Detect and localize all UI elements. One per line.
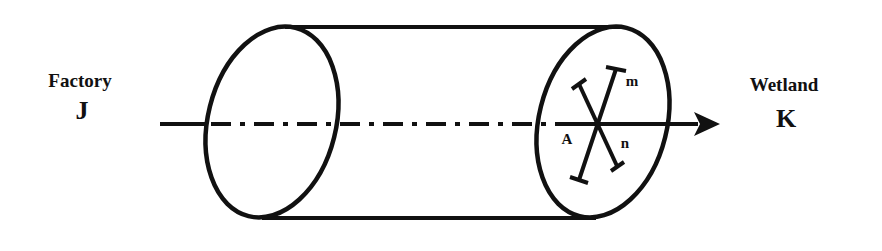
axis-m-cap-bottom bbox=[570, 177, 588, 183]
source-name-label: Factory bbox=[48, 70, 112, 91]
cylinder-flow-diagram: Factory J Wetland K A m n bbox=[0, 0, 882, 251]
source-letter-label: J bbox=[76, 96, 89, 125]
point-a-label: A bbox=[562, 131, 573, 147]
axis-n-label: n bbox=[621, 135, 630, 151]
destination-letter-label: K bbox=[776, 104, 797, 133]
axis-m-cap-top bbox=[606, 67, 626, 71]
destination-name-label: Wetland bbox=[750, 74, 819, 95]
axis-m-label: m bbox=[626, 73, 639, 89]
